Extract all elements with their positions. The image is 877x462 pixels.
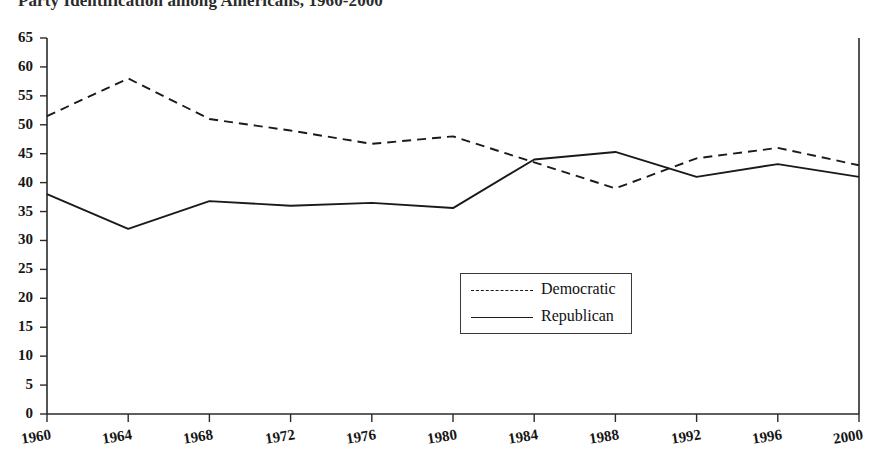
y-tick-label: 35 <box>0 204 33 219</box>
y-tick-label: 50 <box>0 117 33 132</box>
legend-item-republican: Republican <box>461 305 631 331</box>
y-tick-label: 0 <box>0 406 33 421</box>
y-tick-label: 55 <box>0 88 33 103</box>
plot-area <box>0 0 877 462</box>
y-tick-label: 65 <box>0 30 33 45</box>
legend-label-democratic: Democratic <box>541 280 616 298</box>
series-line-democratic <box>47 78 859 188</box>
chart-figure: Party Identification among Americans, 19… <box>0 0 877 462</box>
y-tick-label: 60 <box>0 59 33 74</box>
series-group <box>47 78 859 228</box>
legend-item-democratic: Democratic <box>461 278 631 304</box>
y-tick-label: 30 <box>0 232 33 247</box>
y-tick-label: 40 <box>0 175 33 190</box>
legend-label-republican: Republican <box>541 307 614 325</box>
y-tick-label: 10 <box>0 348 33 363</box>
chart-legend: Democratic Republican <box>460 273 632 334</box>
y-tick-label: 45 <box>0 146 33 161</box>
series-line-republican <box>47 152 859 229</box>
y-tick-label: 20 <box>0 290 33 305</box>
y-tick-label: 5 <box>0 377 33 392</box>
y-tick-label: 15 <box>0 319 33 334</box>
legend-swatch-solid-line <box>471 317 533 318</box>
y-tick-label: 25 <box>0 261 33 276</box>
legend-swatch-dashed-line <box>471 290 533 291</box>
